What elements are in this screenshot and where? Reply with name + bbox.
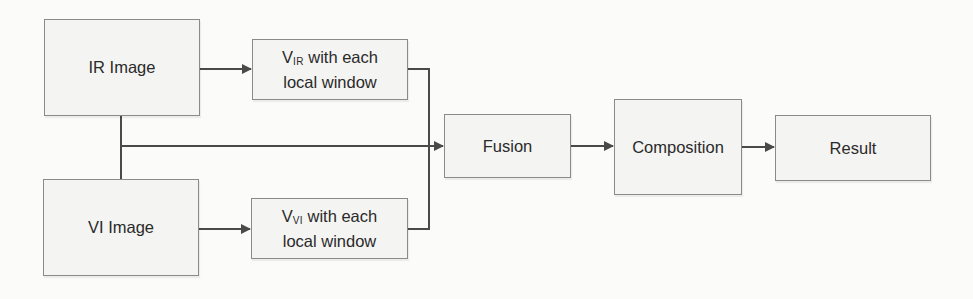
node-v-vi-label: VVI with each local window bbox=[282, 206, 377, 252]
node-v-ir: VIR with each local window bbox=[252, 39, 408, 100]
node-ir-image-label: IR Image bbox=[89, 57, 156, 78]
node-result-label: Result bbox=[830, 138, 877, 159]
node-v-vi: VVI with each local window bbox=[251, 198, 408, 259]
node-composition: Composition bbox=[614, 99, 742, 195]
node-composition-label: Composition bbox=[632, 137, 724, 158]
node-vi-image: VI Image bbox=[43, 179, 199, 276]
node-v-ir-label: VIR with each local window bbox=[282, 47, 378, 93]
fusion-flow-diagram: IR Image VIR with each local window VI I… bbox=[0, 0, 973, 299]
node-ir-image: IR Image bbox=[44, 19, 200, 116]
node-vi-image-label: VI Image bbox=[88, 217, 154, 238]
connector-vir-to-trunk bbox=[408, 69, 429, 229]
node-result: Result bbox=[775, 115, 931, 181]
node-fusion: Fusion bbox=[444, 114, 571, 178]
node-fusion-label: Fusion bbox=[483, 136, 533, 157]
